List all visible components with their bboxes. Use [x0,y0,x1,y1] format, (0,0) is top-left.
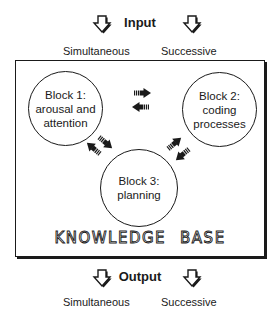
knowledge-base-word-2: BASE [180,229,226,247]
output-arrow-right-icon [183,268,203,290]
knowledge-base-word-1: KNOWLEDGE [54,229,166,247]
output-label-successive: Successive [161,296,217,308]
knowledge-base-label: KNOWLEDGEBASE [0,229,280,247]
output-arrow-left-icon [93,268,113,290]
output-label-simultaneous: Simultaneous [63,296,130,308]
output-title: Output [112,269,168,284]
